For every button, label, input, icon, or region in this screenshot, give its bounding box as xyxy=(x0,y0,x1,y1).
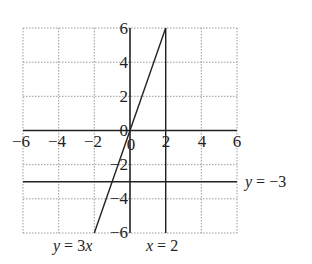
y-tick: −4 xyxy=(110,189,129,208)
x-tick: 0 xyxy=(127,135,136,154)
y-tick: 2 xyxy=(120,87,129,106)
x-tick: 6 xyxy=(233,132,242,151)
label-x-equals-2: x = 2 xyxy=(145,237,178,254)
label-y-equals-3x: y = 3x xyxy=(51,237,92,255)
y-tick: 4 xyxy=(120,53,129,72)
coordinate-plane: −6 −4 −2 0 2 4 6 6 4 2 0 −2 −4 −6 y = 3x… xyxy=(0,0,312,264)
y-tick: −2 xyxy=(110,155,128,174)
y-tick: −6 xyxy=(110,223,128,242)
x-tick: 4 xyxy=(198,132,207,151)
y-tick: 6 xyxy=(120,19,129,38)
x-tick: −6 xyxy=(12,132,30,151)
x-tick: −4 xyxy=(48,132,67,151)
label-y-equals-neg3: y = −3 xyxy=(243,173,286,191)
y-tick: 0 xyxy=(120,121,129,140)
x-tick: 2 xyxy=(162,132,171,151)
x-tick: −2 xyxy=(84,132,102,151)
